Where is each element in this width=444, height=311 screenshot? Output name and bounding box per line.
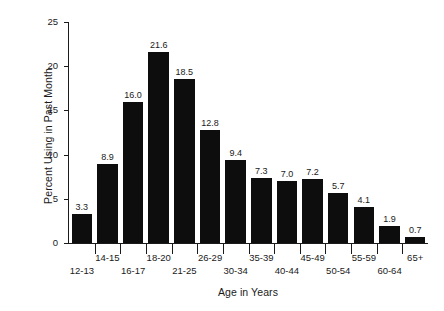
x-category-label: 50-54: [326, 266, 350, 276]
bar-group: 9.4: [225, 22, 246, 243]
bar[interactable]: [97, 164, 118, 243]
bar-value-label: 1.9: [383, 215, 396, 224]
y-tick-mark: [64, 22, 68, 23]
x-category-label: 65+: [407, 253, 423, 263]
x-axis-line: [68, 243, 428, 244]
y-tick-label: 5: [36, 194, 58, 204]
y-tick-label: 25: [36, 17, 58, 27]
plot-area: 3.38.916.021.618.512.89.47.37.07.25.74.1…: [69, 22, 428, 243]
bar-value-label: 5.7: [332, 182, 345, 191]
x-tick-mark: [377, 244, 378, 254]
x-category-label: 30-34: [224, 266, 248, 276]
y-tick-mark: [64, 243, 68, 244]
bar-group: 18.5: [174, 22, 195, 243]
bar[interactable]: [405, 237, 426, 243]
bar[interactable]: [174, 79, 195, 243]
bar[interactable]: [328, 193, 349, 243]
bar-group: 7.2: [302, 22, 323, 243]
bar-value-label: 8.9: [101, 153, 114, 162]
y-tick-label: 15: [36, 105, 58, 115]
bar-group: 3.3: [72, 22, 93, 243]
bar-value-label: 3.3: [76, 203, 89, 212]
bar-group: 21.6: [148, 22, 169, 243]
x-category-label: 55-59: [352, 253, 376, 263]
bar-group: 0.7: [405, 22, 426, 243]
x-category-label: 26-29: [198, 253, 222, 263]
x-tick-mark: [120, 244, 121, 254]
bar[interactable]: [225, 160, 246, 243]
bar-value-label: 4.1: [358, 196, 371, 205]
y-tick-label: 20: [36, 61, 58, 71]
bar-value-label: 16.0: [124, 91, 142, 100]
bar-value-label: 12.8: [201, 119, 219, 128]
y-tick-label: 10: [36, 150, 58, 160]
bar[interactable]: [72, 214, 93, 243]
bar-group: 1.9: [379, 22, 400, 243]
bar-group: 4.1: [354, 22, 375, 243]
y-axis-title: Percent Using in Past Month: [42, 26, 54, 246]
bar[interactable]: [302, 179, 323, 243]
x-axis-title: Age in Years: [68, 286, 428, 298]
x-category-label: 45-49: [300, 253, 324, 263]
x-tick-mark: [402, 244, 403, 254]
x-tick-mark: [223, 244, 224, 254]
bar-value-label: 7.3: [255, 167, 268, 176]
bar-value-label: 7.2: [306, 168, 319, 177]
x-category-label: 14-15: [95, 253, 119, 263]
bar-value-label: 0.7: [409, 226, 422, 235]
y-tick-mark: [64, 199, 68, 200]
bar[interactable]: [123, 102, 144, 243]
y-tick-label: 0: [36, 238, 58, 248]
x-category-label: 60-64: [377, 266, 401, 276]
bar-group: 16.0: [123, 22, 144, 243]
bar-value-label: 9.4: [229, 149, 242, 158]
x-category-label: 16-17: [121, 266, 145, 276]
bar[interactable]: [379, 226, 400, 243]
bar-group: 12.8: [200, 22, 221, 243]
x-tick-mark: [172, 244, 173, 254]
bar-value-label: 18.5: [176, 68, 194, 77]
y-tick-mark: [64, 110, 68, 111]
y-tick-mark: [64, 66, 68, 67]
x-category-label: 21-25: [172, 266, 196, 276]
bar[interactable]: [251, 178, 272, 243]
x-category-label: 18-20: [147, 253, 171, 263]
x-category-label: 40-44: [275, 266, 299, 276]
bar[interactable]: [148, 52, 169, 243]
x-tick-mark: [274, 244, 275, 254]
bar-group: 5.7: [328, 22, 349, 243]
y-tick-mark: [64, 155, 68, 156]
bar-value-label: 7.0: [281, 170, 294, 179]
bar[interactable]: [354, 207, 375, 243]
x-tick-mark: [325, 244, 326, 254]
bar[interactable]: [200, 130, 221, 243]
bar-group: 7.3: [251, 22, 272, 243]
bar-group: 8.9: [97, 22, 118, 243]
x-category-label: 35-39: [249, 253, 273, 263]
bar-value-label: 21.6: [150, 41, 168, 50]
bar-chart: Percent Using in Past Month 0510152025 3…: [0, 0, 444, 311]
bar-group: 7.0: [277, 22, 298, 243]
x-category-label: 12-13: [70, 266, 94, 276]
bar[interactable]: [277, 181, 298, 243]
